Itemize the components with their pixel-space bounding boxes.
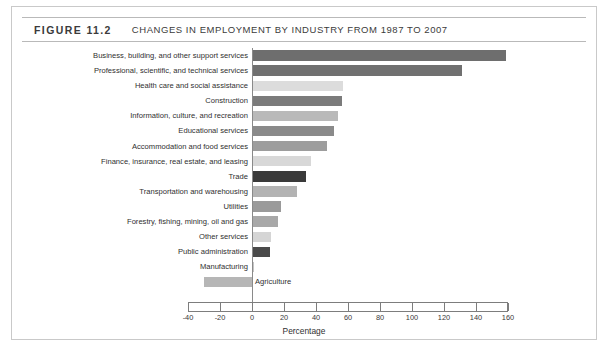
x-axis-tick-label: 80 — [376, 313, 384, 322]
figure-number: FIGURE 11.2 — [34, 24, 112, 36]
x-axis-tick — [348, 303, 349, 311]
figure-header: FIGURE 11.2 CHANGES IN EMPLOYMENT BY IND… — [22, 17, 586, 42]
figure-root: FIGURE 11.2 CHANGES IN EMPLOYMENT BY IND… — [0, 0, 614, 355]
x-axis-tick-label: -40 — [183, 313, 194, 322]
x-axis-tick-label: 100 — [406, 313, 418, 322]
x-axis-tick — [476, 303, 477, 311]
x-axis-tick-label: 140 — [470, 313, 482, 322]
x-axis-tick-label: 0 — [250, 313, 254, 322]
x-axis-tick — [444, 303, 445, 311]
x-axis-tick-label: 20 — [280, 313, 288, 322]
x-axis-tick — [252, 303, 253, 311]
x-axis-tick-label: 40 — [312, 313, 320, 322]
x-axis-tick-label: 60 — [344, 313, 352, 322]
chart-plot-area: Business, building, and other support se… — [22, 44, 586, 334]
x-axis-tick — [380, 303, 381, 311]
figure-title: CHANGES IN EMPLOYMENT BY INDUSTRY FROM 1… — [132, 24, 448, 35]
x-axis-tick-label: -20 — [215, 313, 226, 322]
x-axis-tick-label: 160 — [502, 313, 514, 322]
x-axis-tick — [316, 303, 317, 311]
x-axis-tick — [188, 303, 189, 311]
x-axis: -40-20020406080100120140160 Percentage — [22, 44, 586, 334]
x-axis-tick — [220, 303, 221, 311]
x-axis-tick — [508, 303, 509, 311]
x-axis-tick — [284, 303, 285, 311]
x-axis-tick-label: 120 — [438, 313, 450, 322]
x-axis-title: Percentage — [22, 326, 586, 336]
x-axis-tick — [412, 303, 413, 311]
